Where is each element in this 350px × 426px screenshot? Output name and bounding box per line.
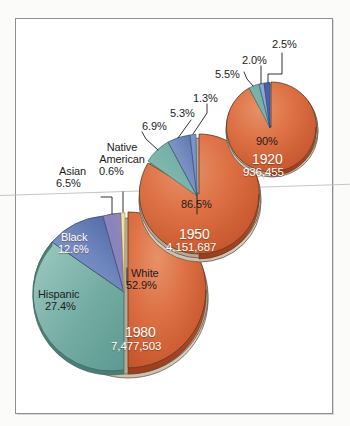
callout-1920-asian: 2.5% <box>272 38 297 51</box>
pie-1920-total: 936,455 <box>243 166 284 179</box>
label-white-name: White <box>131 267 159 280</box>
callout-1920-black: 2.0% <box>242 54 267 67</box>
pie-1950-total: 4,151,687 <box>166 241 216 254</box>
pie-chart-svg <box>0 0 350 426</box>
callout-1950-black: 5.3% <box>170 107 195 120</box>
label-asian-name: Asian <box>59 165 86 178</box>
pie-chart-stage <box>0 0 350 426</box>
pie-1980-year: 1980 <box>125 325 156 340</box>
callout-1950-asian: 1.3% <box>193 92 218 105</box>
label-hispanic-name: Hispanic <box>38 288 79 301</box>
label-native-american-pct: 0.6% <box>99 165 124 178</box>
label-native-american-line2: American <box>86 153 158 166</box>
pie-1980-total: 7,477,503 <box>111 340 161 353</box>
label-black-pct: 12.6% <box>58 243 89 256</box>
callout-1920-hispanic: 5.5% <box>215 68 240 81</box>
pie-1920-center-pct: 90% <box>256 135 278 148</box>
label-black-name: Black <box>61 231 87 244</box>
label-asian-pct: 6.5% <box>56 177 81 190</box>
label-native-american-line1: Native <box>94 141 150 154</box>
label-white-pct: 52.9% <box>126 279 157 292</box>
pie-1920-year: 1920 <box>252 152 283 167</box>
pie-1950-year: 1950 <box>179 227 210 242</box>
pie-1950-center-pct: 86.5% <box>181 198 212 211</box>
label-hispanic-pct: 27.4% <box>45 300 76 313</box>
callout-1950-hispanic: 6.9% <box>142 120 167 133</box>
